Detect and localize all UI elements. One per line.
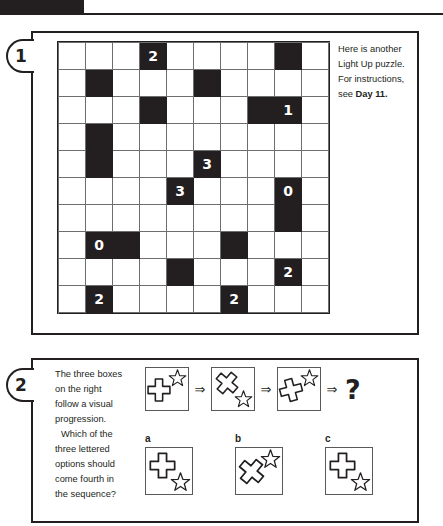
grid-empty-cell[interactable] xyxy=(275,124,302,151)
grid-empty-cell[interactable] xyxy=(59,178,86,205)
grid-empty-cell[interactable] xyxy=(167,286,194,313)
grid-clue-cell[interactable]: 2 xyxy=(221,286,248,313)
grid-empty-cell[interactable] xyxy=(140,178,167,205)
grid-empty-cell[interactable] xyxy=(140,286,167,313)
grid-empty-cell[interactable] xyxy=(248,205,275,232)
grid-wall-cell[interactable] xyxy=(167,259,194,286)
grid-empty-cell[interactable] xyxy=(167,70,194,97)
grid-empty-cell[interactable] xyxy=(221,205,248,232)
grid-empty-cell[interactable] xyxy=(302,259,329,286)
answer-option-c[interactable]: c xyxy=(325,433,373,495)
grid-empty-cell[interactable] xyxy=(302,43,329,70)
grid-empty-cell[interactable] xyxy=(167,43,194,70)
sequence-box-2[interactable] xyxy=(211,367,255,411)
grid-empty-cell[interactable] xyxy=(302,70,329,97)
grid-empty-cell[interactable] xyxy=(221,259,248,286)
grid-empty-cell[interactable] xyxy=(86,97,113,124)
grid-wall-cell[interactable] xyxy=(113,232,140,259)
grid-wall-cell[interactable] xyxy=(86,124,113,151)
grid-empty-cell[interactable] xyxy=(140,70,167,97)
grid-empty-cell[interactable] xyxy=(59,286,86,313)
grid-empty-cell[interactable] xyxy=(302,205,329,232)
grid-empty-cell[interactable] xyxy=(302,232,329,259)
grid-empty-cell[interactable] xyxy=(194,232,221,259)
grid-empty-cell[interactable] xyxy=(248,178,275,205)
grid-empty-cell[interactable] xyxy=(248,124,275,151)
grid-empty-cell[interactable] xyxy=(59,97,86,124)
grid-empty-cell[interactable] xyxy=(221,97,248,124)
grid-empty-cell[interactable] xyxy=(113,151,140,178)
grid-empty-cell[interactable] xyxy=(194,178,221,205)
grid-empty-cell[interactable] xyxy=(113,43,140,70)
grid-empty-cell[interactable] xyxy=(140,124,167,151)
grid-empty-cell[interactable] xyxy=(59,205,86,232)
grid-empty-cell[interactable] xyxy=(194,97,221,124)
sequence-box-3[interactable] xyxy=(277,367,321,411)
answer-option-a[interactable]: a xyxy=(145,433,193,495)
grid-empty-cell[interactable] xyxy=(248,286,275,313)
grid-clue-cell[interactable]: 2 xyxy=(140,43,167,70)
grid-wall-cell[interactable] xyxy=(248,97,275,124)
grid-wall-cell[interactable] xyxy=(275,205,302,232)
grid-empty-cell[interactable] xyxy=(248,151,275,178)
grid-empty-cell[interactable] xyxy=(113,70,140,97)
grid-empty-cell[interactable] xyxy=(275,232,302,259)
grid-empty-cell[interactable] xyxy=(140,259,167,286)
grid-empty-cell[interactable] xyxy=(248,70,275,97)
grid-clue-cell[interactable]: 2 xyxy=(275,259,302,286)
grid-empty-cell[interactable] xyxy=(86,178,113,205)
grid-empty-cell[interactable] xyxy=(221,151,248,178)
grid-empty-cell[interactable] xyxy=(113,178,140,205)
grid-empty-cell[interactable] xyxy=(167,151,194,178)
grid-clue-cell[interactable]: 0 xyxy=(275,178,302,205)
grid-empty-cell[interactable] xyxy=(302,97,329,124)
grid-empty-cell[interactable] xyxy=(59,232,86,259)
grid-empty-cell[interactable] xyxy=(302,124,329,151)
grid-empty-cell[interactable] xyxy=(275,286,302,313)
grid-clue-cell[interactable]: 3 xyxy=(167,178,194,205)
grid-empty-cell[interactable] xyxy=(113,259,140,286)
grid-wall-cell[interactable] xyxy=(86,151,113,178)
grid-empty-cell[interactable] xyxy=(194,124,221,151)
grid-empty-cell[interactable] xyxy=(113,205,140,232)
grid-clue-cell[interactable]: 0 xyxy=(86,232,113,259)
grid-wall-cell[interactable] xyxy=(140,97,167,124)
answer-option-box-c[interactable] xyxy=(325,447,373,495)
grid-empty-cell[interactable] xyxy=(221,178,248,205)
grid-empty-cell[interactable] xyxy=(167,232,194,259)
grid-empty-cell[interactable] xyxy=(167,205,194,232)
grid-empty-cell[interactable] xyxy=(221,70,248,97)
grid-wall-cell[interactable] xyxy=(221,232,248,259)
grid-empty-cell[interactable] xyxy=(140,232,167,259)
grid-wall-cell[interactable] xyxy=(275,43,302,70)
grid-empty-cell[interactable] xyxy=(59,259,86,286)
grid-empty-cell[interactable] xyxy=(59,43,86,70)
light-up-grid[interactable]: 213300222 xyxy=(58,42,330,314)
grid-wall-cell[interactable] xyxy=(86,70,113,97)
grid-empty-cell[interactable] xyxy=(86,259,113,286)
grid-empty-cell[interactable] xyxy=(302,151,329,178)
grid-empty-cell[interactable] xyxy=(140,151,167,178)
grid-empty-cell[interactable] xyxy=(167,124,194,151)
grid-empty-cell[interactable] xyxy=(113,286,140,313)
grid-empty-cell[interactable] xyxy=(302,178,329,205)
grid-empty-cell[interactable] xyxy=(248,232,275,259)
grid-empty-cell[interactable] xyxy=(59,70,86,97)
grid-wall-cell[interactable] xyxy=(194,70,221,97)
grid-empty-cell[interactable] xyxy=(86,43,113,70)
grid-empty-cell[interactable] xyxy=(140,205,167,232)
grid-clue-cell[interactable]: 3 xyxy=(194,151,221,178)
grid-empty-cell[interactable] xyxy=(194,286,221,313)
grid-empty-cell[interactable] xyxy=(275,70,302,97)
grid-empty-cell[interactable] xyxy=(194,205,221,232)
grid-empty-cell[interactable] xyxy=(167,97,194,124)
answer-option-box-a[interactable] xyxy=(145,447,193,495)
answer-option-b[interactable]: b xyxy=(235,433,283,495)
sequence-box-1[interactable] xyxy=(145,367,189,411)
grid-empty-cell[interactable] xyxy=(59,124,86,151)
answer-option-box-b[interactable] xyxy=(235,447,283,495)
grid-empty-cell[interactable] xyxy=(221,124,248,151)
grid-empty-cell[interactable] xyxy=(248,259,275,286)
grid-empty-cell[interactable] xyxy=(194,43,221,70)
grid-clue-cell[interactable]: 2 xyxy=(86,286,113,313)
